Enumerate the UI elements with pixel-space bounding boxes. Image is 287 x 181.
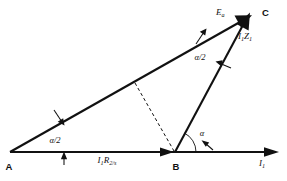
vector-i1z1-line <box>175 25 243 152</box>
vector-label-i1z1-zsub: 1 <box>249 35 252 42</box>
svg-text:I1: I1 <box>258 158 265 169</box>
tick-on-alpha-arc <box>202 140 214 150</box>
vertex-label-B: B <box>173 161 180 172</box>
vector-label-ea-sub: a <box>222 11 225 18</box>
svg-text:Ea: Ea <box>215 7 225 18</box>
phasor-diagram-figure: A B C Ea I1Z1 I1R2/s I1 α <box>0 0 287 181</box>
current-axis-group <box>10 147 279 157</box>
tick-below-axis <box>61 152 67 166</box>
angle-label-alpha-at-b: α <box>200 128 205 138</box>
svg-text:I1R2/s: I1R2/s <box>97 155 117 166</box>
vector-label-i1r2s-tail: /s <box>111 159 117 166</box>
vector-label-ea: Ea <box>215 7 225 18</box>
vector-label-i1z1: I1Z1 <box>237 31 252 42</box>
vector-label-i1r2s: I1R2/s <box>97 155 117 166</box>
angle-label-alpha-half-at-a: α/2 <box>49 135 61 145</box>
vector-ea-group <box>10 15 252 152</box>
vector-ea-line <box>10 22 240 152</box>
dashed-altitude-line <box>135 83 174 151</box>
vector-i1r2s-group <box>160 147 174 156</box>
phasor-diagram-canvas: A B C Ea I1Z1 I1R2/s I1 α <box>0 0 287 181</box>
angle-label-alpha-half-at-c: α/2 <box>194 52 206 62</box>
vertex-label-A: A <box>6 161 13 172</box>
angle-alpha-arc <box>184 133 196 152</box>
axis-label-i1: I1 <box>258 158 265 169</box>
svg-text:I1Z1: I1Z1 <box>237 31 252 42</box>
vector-i1r2s-arrowhead <box>160 147 174 156</box>
vertex-label-C: C <box>262 7 269 18</box>
axis-label-i1-sub: 1 <box>262 162 265 169</box>
current-axis-arrowhead <box>264 147 279 157</box>
